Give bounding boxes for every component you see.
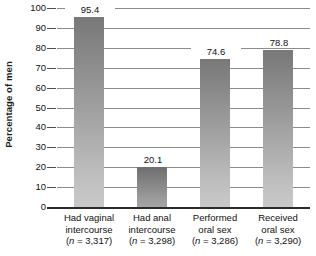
bar-value-label: 95.4	[65, 4, 115, 15]
plot-area: 95.420.174.678.8	[57, 8, 310, 207]
y-tick-label: 40	[20, 122, 46, 132]
y-tick-label: 50	[20, 103, 46, 113]
y-tick-label: 10	[20, 182, 46, 192]
y-tick-mark	[47, 28, 56, 29]
y-tick-mark	[47, 187, 56, 188]
y-tick-mark	[47, 88, 56, 89]
y-tick-mark	[47, 8, 56, 9]
bar	[137, 167, 167, 207]
bar	[263, 50, 293, 207]
bar-value-label: 20.1	[128, 154, 178, 165]
y-tick-label: 90	[20, 23, 46, 33]
y-tick-mark	[47, 108, 56, 109]
y-tick-mark	[47, 48, 56, 49]
category-label-line2: oral sex	[241, 224, 315, 236]
bar-value-label: 74.6	[191, 46, 241, 57]
y-tick-label: 20	[20, 162, 46, 172]
bar	[200, 59, 230, 207]
bar-chart: Percentage of men 1009080706050403020100…	[0, 0, 316, 256]
y-tick-label: 0	[20, 202, 46, 212]
y-tick-label: 70	[20, 63, 46, 73]
bar-value-label: 78.8	[254, 37, 304, 48]
x-axis-line	[47, 207, 310, 209]
y-axis-title-text: Percentage of men	[3, 61, 14, 148]
y-tick-mark	[47, 167, 56, 168]
y-axis-tick-labels: 1009080706050403020100	[16, 0, 46, 256]
y-tick-label: 80	[20, 43, 46, 53]
y-tick-label: 100	[20, 3, 46, 13]
x-category-label: Receivedoral sex(n = 3,290)	[241, 212, 315, 247]
bar	[74, 17, 104, 207]
category-label-sample-size: (n = 3,290)	[241, 235, 315, 247]
y-tick-mark	[47, 147, 56, 148]
y-tick-mark	[47, 68, 56, 69]
category-label-line1: Received	[241, 212, 315, 224]
y-tick-label: 60	[20, 83, 46, 93]
x-axis-category-labels: Had vaginalintercourse(n = 3,317)Had ana…	[57, 210, 310, 256]
y-axis-title: Percentage of men	[0, 0, 16, 208]
y-tick-mark	[47, 127, 56, 128]
y-tick-label: 30	[20, 142, 46, 152]
